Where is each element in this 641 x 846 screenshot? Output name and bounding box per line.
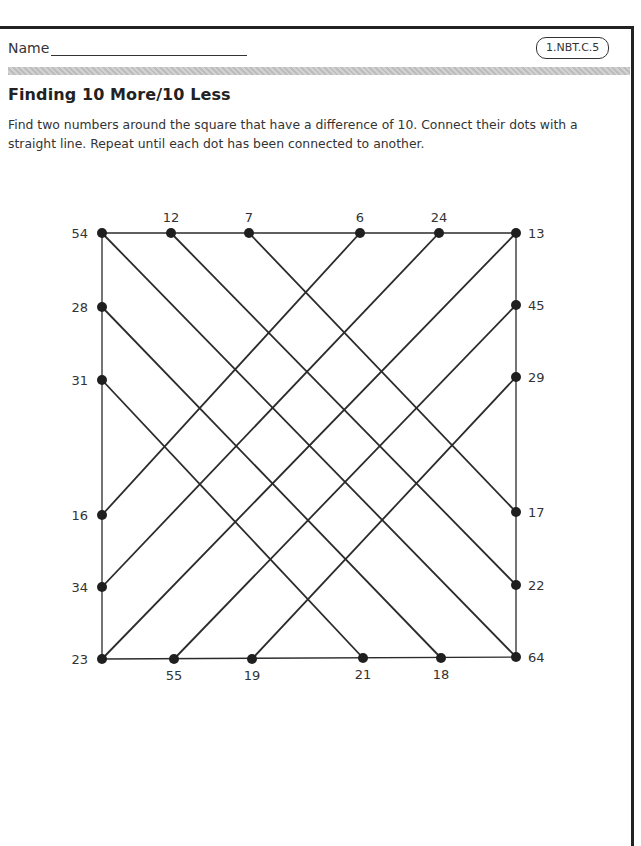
label-13: 13 bbox=[528, 226, 545, 241]
label-7: 7 bbox=[245, 210, 253, 225]
dot-18[interactable] bbox=[436, 653, 446, 663]
label-45: 45 bbox=[528, 298, 545, 313]
dot-12[interactable] bbox=[166, 228, 176, 238]
dot-6[interactable] bbox=[355, 228, 365, 238]
dot-29[interactable] bbox=[511, 372, 521, 382]
dot-13[interactable] bbox=[511, 228, 521, 238]
dot-21[interactable] bbox=[358, 653, 368, 663]
label-22: 22 bbox=[528, 578, 545, 593]
dot-7[interactable] bbox=[244, 228, 254, 238]
dot-34[interactable] bbox=[97, 582, 107, 592]
dot-55[interactable] bbox=[169, 654, 179, 664]
dot-45[interactable] bbox=[511, 300, 521, 310]
label-17: 17 bbox=[528, 505, 545, 520]
dot-64[interactable] bbox=[511, 652, 521, 662]
label-31: 31 bbox=[71, 373, 88, 388]
dot-24[interactable] bbox=[434, 228, 444, 238]
connection-line-28-18 bbox=[102, 307, 441, 658]
connection-line-24-34 bbox=[102, 233, 439, 587]
label-23: 23 bbox=[71, 652, 88, 667]
dot-54[interactable] bbox=[97, 228, 107, 238]
label-54: 54 bbox=[71, 226, 88, 241]
dot-23[interactable] bbox=[97, 654, 107, 664]
label-29: 29 bbox=[528, 370, 545, 385]
dot-28[interactable] bbox=[97, 302, 107, 312]
connection-line-31-21 bbox=[102, 380, 363, 658]
label-28: 28 bbox=[71, 300, 88, 315]
label-16: 16 bbox=[71, 508, 88, 523]
dot-22[interactable] bbox=[511, 580, 521, 590]
label-18: 18 bbox=[433, 667, 450, 682]
label-55: 55 bbox=[166, 668, 183, 683]
label-6: 6 bbox=[356, 210, 364, 225]
label-24: 24 bbox=[431, 210, 448, 225]
dot-16[interactable] bbox=[97, 510, 107, 520]
label-19: 19 bbox=[244, 668, 261, 683]
label-21: 21 bbox=[355, 667, 372, 682]
label-34: 34 bbox=[71, 580, 88, 595]
connection-line-6-16 bbox=[102, 233, 360, 515]
connection-lines bbox=[102, 233, 516, 659]
label-12: 12 bbox=[163, 210, 180, 225]
dot-19[interactable] bbox=[247, 654, 257, 664]
dot-17[interactable] bbox=[511, 507, 521, 517]
label-64: 64 bbox=[528, 650, 545, 665]
dot-31[interactable] bbox=[97, 375, 107, 385]
